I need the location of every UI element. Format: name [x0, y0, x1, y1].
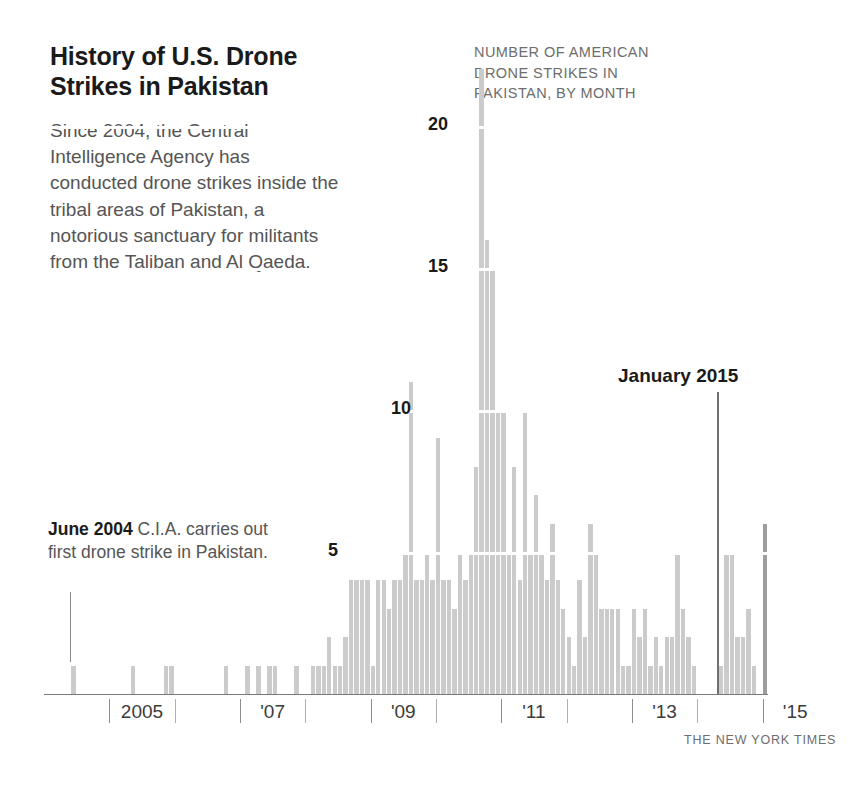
bar [741, 637, 745, 694]
bar [719, 666, 723, 694]
bar [327, 637, 331, 694]
bar [333, 666, 337, 694]
y-axis-tick-label: 5 [292, 540, 338, 561]
x-axis-tick [371, 699, 372, 723]
bar [643, 609, 647, 694]
bar [452, 609, 456, 694]
x-axis-tick [697, 699, 698, 723]
annotation-january-2015-leader [717, 392, 719, 694]
x-axis-tick-label: '15 [783, 701, 808, 723]
x-axis-tick [305, 699, 306, 723]
bar [610, 609, 614, 694]
bar [322, 666, 326, 694]
bar [316, 666, 320, 694]
y-axis-tick-label: 20 [402, 114, 448, 135]
x-axis-tick-label: 2005 [121, 701, 163, 723]
bar [273, 666, 277, 694]
bar [659, 666, 663, 694]
bar [512, 467, 516, 694]
bar [474, 467, 478, 694]
bar [637, 637, 641, 694]
bar [430, 580, 434, 694]
bar [343, 637, 347, 694]
bar [371, 666, 375, 694]
bar [398, 580, 402, 694]
bar [447, 580, 451, 694]
bar [692, 666, 696, 694]
bar [131, 666, 135, 694]
bar [485, 240, 489, 694]
bar [294, 666, 298, 694]
bar [539, 552, 543, 694]
x-axis-tick [240, 699, 241, 723]
bar [665, 637, 669, 694]
bar [507, 552, 511, 694]
annotation-june-2004-bold: June 2004 [48, 519, 133, 539]
bar [224, 666, 228, 694]
bar [490, 268, 494, 694]
bar [256, 666, 260, 694]
bar [365, 580, 369, 694]
x-axis-tick [632, 699, 633, 723]
source-credit: THE NEW YORK TIMES [684, 733, 836, 747]
bar [588, 524, 592, 694]
bar [441, 580, 445, 694]
bar [724, 552, 728, 694]
bar [425, 552, 429, 694]
bar [534, 495, 538, 694]
x-axis-tick [109, 699, 110, 723]
bar [479, 69, 483, 694]
bar [382, 580, 386, 694]
bar [528, 552, 532, 694]
bar [752, 666, 756, 694]
bar [463, 580, 467, 694]
bar [730, 552, 734, 694]
bar [436, 438, 440, 694]
bar [572, 666, 576, 694]
bar [169, 666, 173, 694]
bar [458, 552, 462, 694]
bar [545, 580, 549, 694]
bar [654, 637, 658, 694]
bar [567, 637, 571, 694]
bar [403, 552, 407, 694]
x-axis-tick [175, 699, 176, 723]
bar [577, 580, 581, 694]
bar [409, 382, 413, 694]
y-axis-tick-label: 15 [402, 256, 448, 277]
bar [605, 609, 609, 694]
bar [338, 666, 342, 694]
bar [349, 580, 353, 694]
bar [626, 666, 630, 694]
x-axis-tick-label: '11 [522, 701, 545, 723]
bar [556, 580, 560, 694]
bar [599, 609, 603, 694]
bar [670, 637, 674, 694]
bar [735, 637, 739, 694]
annotation-june-2004: June 2004 C.I.A. carries out first drone… [48, 518, 278, 565]
bar [311, 666, 315, 694]
bar [354, 580, 358, 694]
x-axis-tick [763, 699, 764, 723]
bar [71, 666, 75, 694]
bar [414, 580, 418, 694]
x-axis-tick-label: '09 [391, 701, 416, 723]
annotation-june-2004-leader [70, 592, 71, 662]
bar [387, 609, 391, 694]
bar [621, 666, 625, 694]
x-axis-tick-label: '07 [260, 701, 285, 723]
bar [164, 666, 168, 694]
bar [518, 580, 522, 694]
x-axis-tick [567, 699, 568, 723]
chart-root: History of U.S. Drone Strikes in Pakista… [0, 0, 862, 785]
bar [245, 666, 249, 694]
annotation-january-2015: January 2015 [618, 365, 738, 387]
bar [746, 609, 750, 694]
bar [594, 552, 598, 694]
bar [648, 666, 652, 694]
bar [583, 637, 587, 694]
x-axis-line [44, 694, 768, 695]
bar [675, 552, 679, 694]
x-axis-tick-label: '13 [652, 701, 677, 723]
bar [686, 637, 690, 694]
